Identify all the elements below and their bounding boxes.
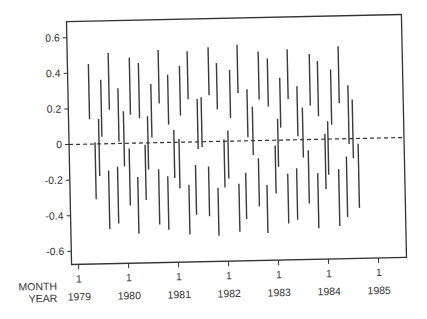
interval-bar	[174, 130, 175, 178]
interval-bar	[95, 142, 96, 199]
interval-bar	[129, 149, 130, 206]
x-tick-year-label: 1979	[67, 290, 91, 302]
interval-bar	[297, 86, 298, 136]
y-tick-label: 0	[56, 138, 62, 150]
interval-bar	[99, 119, 100, 176]
interval-bar	[168, 75, 169, 125]
x-tick-year-label: 1985	[367, 284, 391, 296]
interval-bar	[288, 174, 289, 224]
interval-bar	[168, 176, 169, 229]
interval-bar	[309, 54, 310, 106]
interval-bar	[278, 119, 279, 167]
interval-bar	[129, 58, 130, 115]
interval-bar	[201, 97, 202, 147]
x-tick-year-label: 1982	[217, 287, 241, 299]
x-tick-month-label: 1	[76, 272, 82, 284]
y-tick-label: 0.6	[45, 31, 60, 43]
interval-bar	[208, 47, 209, 95]
x-tick-year-label: 1984	[317, 285, 341, 297]
interval-bar	[230, 70, 231, 118]
x-tick-month-label: 1	[326, 267, 332, 279]
y-tick-label: -0.6	[46, 245, 65, 257]
x-tick-month-label: 1	[276, 268, 282, 280]
interval-bar	[159, 169, 160, 224]
interval-bar	[318, 173, 319, 228]
y-tick-label: -0.4	[45, 209, 64, 221]
interval-bars	[88, 42, 360, 238]
interval-bar	[147, 116, 148, 169]
interval-bar	[325, 134, 326, 189]
interval-bar	[302, 108, 303, 158]
interval-bar	[267, 58, 268, 106]
interval-bar	[308, 150, 309, 203]
interval-bar	[317, 61, 318, 116]
y-tick-label: -0.2	[45, 174, 64, 186]
interval-bar	[101, 80, 102, 137]
interval-bar	[187, 51, 188, 99]
x-tick-year-label: 1981	[167, 288, 191, 300]
y-tick-label: 0.4	[46, 67, 61, 79]
interval-bar	[228, 131, 229, 179]
interval-bar	[118, 88, 119, 141]
interval-bar	[196, 165, 197, 215]
interval-bar	[108, 53, 109, 110]
interval-bar	[145, 145, 146, 200]
x-tick-year-label: 1980	[117, 289, 141, 301]
interval-bar	[138, 63, 139, 118]
interval-bar	[348, 85, 349, 144]
interval-bar	[252, 107, 253, 155]
interval-bar	[218, 188, 219, 236]
x-tick-month-label: 1	[126, 271, 132, 283]
interval-bar	[280, 78, 281, 128]
interval-bar	[287, 49, 288, 99]
x-axis-title-year: YEAR	[29, 292, 58, 305]
interval-bar	[123, 111, 124, 166]
interval-bar	[179, 66, 180, 116]
x-axis: 11979119801198111982119831198411985	[67, 258, 391, 303]
interval-bar	[88, 64, 89, 119]
interval-bar	[216, 63, 217, 109]
interval-bar	[118, 167, 119, 224]
interval-bar	[328, 121, 329, 174]
interval-bar	[109, 170, 110, 229]
interval-bar	[246, 173, 247, 219]
interval-bar	[339, 169, 340, 226]
interval-bar	[247, 89, 248, 137]
interval-bar	[158, 50, 159, 103]
interval-chart: 0.60.40.20-0.2-0.4-0.6 11979119801198111…	[0, 0, 427, 319]
interval-bar	[189, 185, 190, 235]
interval-bar	[275, 146, 276, 194]
interval-bar	[138, 177, 139, 234]
interval-bar	[358, 144, 359, 208]
interval-bar	[179, 139, 180, 189]
interval-bar	[267, 185, 268, 233]
x-tick-month-label: 1	[176, 270, 182, 282]
interval-bar	[331, 70, 332, 125]
interval-bar	[297, 168, 298, 220]
interval-bar	[239, 184, 240, 232]
interval-bar	[258, 158, 259, 206]
interval-bar	[151, 84, 152, 137]
x-axis-title-month: MONTH	[18, 280, 57, 293]
interval-bar	[237, 45, 238, 93]
interval-bar	[224, 139, 225, 187]
interval-bar	[338, 46, 339, 103]
interval-bar	[258, 52, 259, 100]
x-tick-month-label: 1	[226, 269, 232, 281]
y-tick-label: 0.2	[47, 103, 62, 115]
interval-bar	[352, 99, 353, 158]
interval-bar	[209, 167, 210, 217]
x-tick-year-label: 1983	[267, 286, 291, 298]
interval-bar	[346, 157, 347, 218]
x-tick-month-label: 1	[376, 266, 382, 278]
